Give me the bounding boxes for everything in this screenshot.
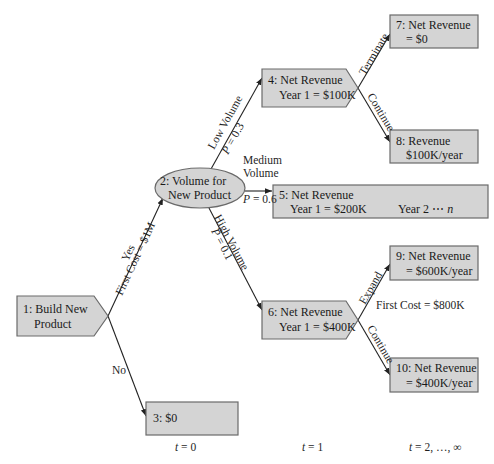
node-7-line1: 7: Net Revenue xyxy=(396,18,471,32)
node-5-medium-revenue: 5: Net Revenue Year 1 = $200K Year 2 ⋯ n xyxy=(273,185,488,218)
node-5-line2: Year 1 = $200K xyxy=(290,202,367,216)
node-1-line2: Product xyxy=(34,317,72,331)
node-5-line1: 5: Net Revenue xyxy=(279,188,354,202)
node-9-line2: = $600K/year xyxy=(406,264,472,278)
node-6-line2: Year 1 = $400K xyxy=(279,320,356,334)
edge-medium-label2: Volume xyxy=(243,167,279,179)
node-4-line1: 4: Net Revenue xyxy=(268,73,343,87)
node-5-line2b: Year 2 ⋯ n xyxy=(398,202,453,216)
node-7-line2: = $0 xyxy=(406,32,428,46)
edge-medium-label1: Medium xyxy=(243,154,282,166)
node-2-line1: 2: Volume for xyxy=(160,174,226,188)
node-8-line1: 8: Revenue xyxy=(396,134,450,148)
node-2-line2: New Product xyxy=(168,188,232,202)
node-9-line1: 9: Net Revenue xyxy=(396,249,471,263)
node-4-line2: Year 1 = $100K xyxy=(279,88,356,102)
node-3-zero: 3: $0 xyxy=(146,402,238,435)
node-4-low-revenue: 4: Net Revenue Year 1 = $100K xyxy=(262,69,358,107)
node-8-continue-outcome: 8: Revenue $100K/year xyxy=(390,130,478,163)
node-6-high-revenue: 6: Net Revenue Year 1 = $400K xyxy=(262,301,358,339)
node-10-line1: 10: Net Revenue xyxy=(396,361,477,375)
node-9-expand-outcome: 9: Net Revenue = $600K/year xyxy=(390,246,478,280)
edge-no-label: No xyxy=(112,364,126,376)
node-2-volume-chance: 2: Volume for New Product xyxy=(155,168,245,208)
node-8-line2: $100K/year xyxy=(406,148,463,162)
node-10-line2: = $400K/year xyxy=(406,376,472,390)
edge-terminate-label: Terminate xyxy=(356,31,390,77)
decision-tree-diagram: 1: Build New Product 2: Volume for New P… xyxy=(0,0,494,464)
edge-expand-cost-label: First Cost = $800K xyxy=(376,299,465,311)
node-10-continue-outcome: 10: Net Revenue = $400K/year xyxy=(390,358,478,392)
time-label-t2: t = 2, …, ∞ xyxy=(409,441,461,454)
node-6-line1: 6: Net Revenue xyxy=(268,305,343,319)
edge-medium-prob: P = 0.6 xyxy=(242,193,277,205)
node-1-build-new-product: 1: Build New Product xyxy=(17,296,108,336)
node-7-terminate-outcome: 7: Net Revenue = $0 xyxy=(390,15,478,48)
node-1-line1: 1: Build New xyxy=(23,302,88,316)
time-label-t1: t = 1 xyxy=(302,441,323,453)
time-label-t0: t = 0 xyxy=(175,441,196,453)
node-3-line1: 3: $0 xyxy=(153,411,177,425)
